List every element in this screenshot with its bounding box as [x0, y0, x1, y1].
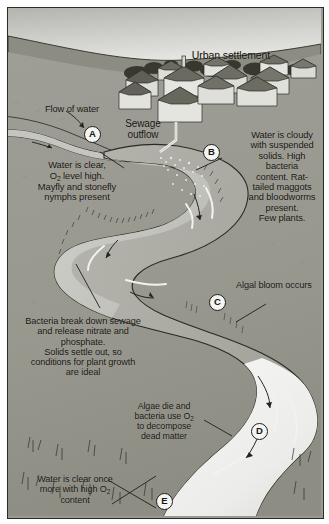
note-upstream-line4: nymphs present: [12, 192, 142, 203]
marker-e[interactable]: E: [156, 493, 173, 510]
diagram-plate: Urban settlement Flow of water Sewage ou…: [7, 7, 324, 519]
note-bacteria-line1: Bacteria break down sewage: [10, 316, 156, 326]
sewage-outflow-line1: Sewage: [113, 118, 173, 129]
note-polluted-line6: tailed maggots: [230, 182, 324, 192]
note-upstream-clear-water: Water is clear, O2 level high. Mayfly an…: [12, 160, 142, 203]
marker-d[interactable]: D: [251, 423, 268, 440]
note-polluted-zone: Water is cloudy with suspended solids. H…: [230, 130, 324, 224]
label-algal-bloom: Algal bloom occurs: [236, 280, 324, 290]
note-polluted-line1: Water is cloudy: [230, 130, 324, 140]
illustration-frame: Urban settlement Flow of water Sewage ou…: [0, 0, 329, 524]
label-flow-of-water: Flow of water: [26, 104, 118, 114]
note-bacteria-line5: conditions for plant growth: [10, 357, 156, 367]
note-algae-die: Algae die and bacteria use O2 to decompo…: [112, 402, 216, 441]
note-recovered-line3: content: [14, 495, 136, 505]
sewage-outflow-line2: outflow: [113, 129, 173, 140]
marker-a[interactable]: A: [84, 126, 101, 143]
note-polluted-line9: Few plants.: [230, 213, 324, 223]
marker-b[interactable]: B: [203, 144, 220, 161]
note-bacteria-breakdown: Bacteria break down sewage and release n…: [10, 316, 156, 378]
note-polluted-line2: with suspended: [230, 140, 324, 150]
note-bacteria-line6: are ideal: [10, 367, 156, 377]
note-recovered-water: Water is clear once more with high O2 co…: [14, 474, 136, 505]
note-algae-line4: dead matter: [112, 432, 216, 442]
note-polluted-line7: and bloodworms: [230, 192, 324, 202]
marker-c[interactable]: C: [209, 294, 226, 311]
note-bacteria-line3: phosphate.: [10, 337, 156, 347]
note-polluted-line5: content. Rat-: [230, 172, 324, 182]
label-sewage-outflow: Sewage outflow: [113, 118, 173, 140]
note-bacteria-line2: and release nitrate and: [10, 326, 156, 336]
note-recovered-line1: Water is clear once: [14, 474, 136, 484]
note-bacteria-line4: Solids settle out, so: [10, 347, 156, 357]
note-polluted-line8: present.: [230, 203, 324, 213]
label-urban-settlement: Urban settlement: [176, 50, 286, 62]
note-polluted-line3: solids. High: [230, 151, 324, 161]
note-polluted-line4: bacteria: [230, 161, 324, 171]
note-recovered-line2: more with high O2: [14, 484, 136, 495]
